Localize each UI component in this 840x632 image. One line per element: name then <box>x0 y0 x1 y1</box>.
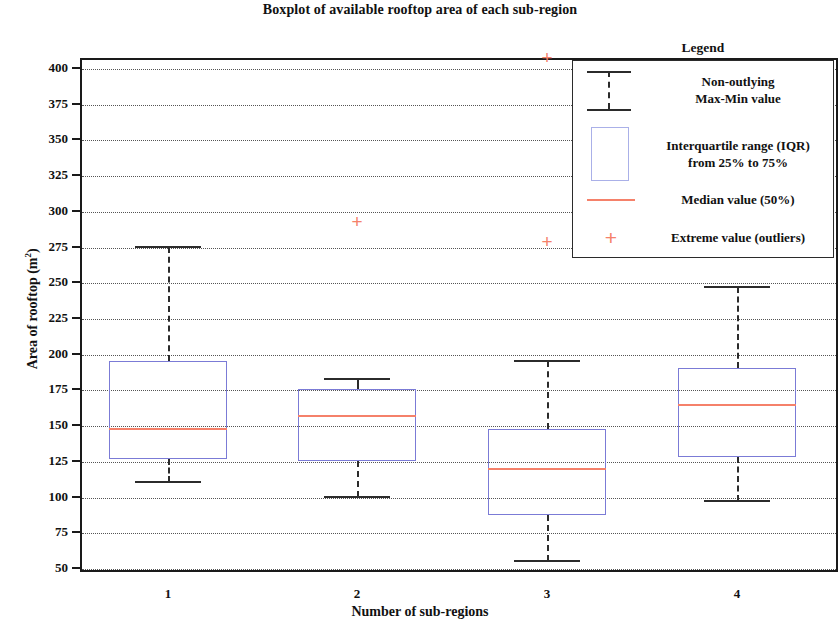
whisker-lower <box>168 459 170 482</box>
whisker-upper <box>737 287 739 368</box>
gridline <box>82 533 836 534</box>
gridline <box>82 319 836 320</box>
whisker-cap-lower <box>704 500 770 502</box>
gridline <box>82 462 836 463</box>
y-tick-mark <box>72 281 81 283</box>
gridline <box>82 498 836 499</box>
y-tick-mark <box>72 246 81 248</box>
median-line <box>109 428 227 430</box>
boxplot-figure: Boxplot of available rooftop area of eac… <box>0 0 840 632</box>
legend-entry-iqr: Interquartile range (IQR) from 25% to 75… <box>573 119 835 181</box>
y-axis-title: Area of rooftop (m2) <box>23 159 41 459</box>
whisker-line-icon <box>608 71 610 109</box>
y-tick-mark <box>72 174 81 176</box>
outlier-marker: + <box>351 211 362 230</box>
outlier-plus-icon: + <box>605 227 617 248</box>
y-tick-mark <box>72 496 81 498</box>
box-iqr <box>678 368 796 457</box>
y-tick-mark <box>72 67 81 69</box>
whisker-lower <box>357 461 359 497</box>
outlier-marker: + <box>541 47 552 66</box>
median-line-icon <box>587 199 635 201</box>
x-tick-label: 1 <box>138 586 198 602</box>
legend-label-iqr-line1: Interquartile range (IQR) <box>666 138 809 153</box>
gridline <box>82 569 836 570</box>
whisker-cap-upper <box>514 360 580 362</box>
legend-label-whisker-line1: Non-outlying <box>702 74 775 89</box>
y-axis-title-exponent: 2 <box>23 253 33 258</box>
box-iqr <box>298 389 416 460</box>
y-tick-label: 100 <box>18 489 68 505</box>
iqr-box-icon <box>591 127 629 181</box>
whisker-cap-lower <box>514 560 580 562</box>
y-tick-mark <box>72 210 81 212</box>
y-axis-title-tail: ) <box>25 248 40 253</box>
legend-label-outlier: Extreme value (outliers) <box>643 229 833 246</box>
outlier-marker: + <box>541 231 552 250</box>
median-line <box>678 404 796 406</box>
y-tick-mark <box>72 424 81 426</box>
whisker-upper <box>357 379 359 389</box>
whisker-cap-bottom-icon <box>587 109 631 111</box>
y-tick-mark <box>72 317 81 319</box>
legend-entry-outlier: + Extreme value (outliers) <box>573 219 835 259</box>
y-tick-label: 375 <box>18 96 68 112</box>
legend-title: Legend <box>572 40 834 56</box>
median-line <box>488 468 606 470</box>
median-line <box>298 415 416 417</box>
whisker-cap-upper <box>135 246 201 248</box>
box-iqr <box>109 361 227 460</box>
legend-box: Non-outlying Max-Min value Interquartile… <box>572 60 834 258</box>
whisker-cap-lower <box>135 481 201 483</box>
whisker-cap-upper <box>324 378 390 380</box>
legend-label-median: Median value (50%) <box>643 191 833 208</box>
whisker-lower <box>737 457 739 501</box>
y-tick-mark <box>72 138 81 140</box>
y-tick-label: 75 <box>18 524 68 540</box>
whisker-upper <box>547 361 549 430</box>
y-axis-title-base: Area of rooftop (m <box>25 258 40 370</box>
chart-title: Boxplot of available rooftop area of eac… <box>0 2 840 18</box>
legend-label-whisker: Non-outlying Max-Min value <box>643 73 833 107</box>
x-tick-label: 2 <box>327 586 387 602</box>
whisker-cap-upper <box>704 286 770 288</box>
y-tick-mark <box>72 103 81 105</box>
y-tick-mark <box>72 353 81 355</box>
y-tick-label: 350 <box>18 131 68 147</box>
y-tick-mark <box>72 531 81 533</box>
legend-label-iqr-line2: from 25% to 75% <box>688 155 788 170</box>
legend-entry-median: Median value (50%) <box>573 181 835 219</box>
legend-label-whisker-line2: Max-Min value <box>695 91 781 106</box>
x-tick-label: 4 <box>707 586 767 602</box>
whisker-upper <box>168 247 170 361</box>
gridline <box>82 355 836 356</box>
x-axis-title: Number of sub-regions <box>0 604 840 620</box>
whisker-lower <box>547 515 549 561</box>
legend-label-iqr: Interquartile range (IQR) from 25% to 75… <box>643 137 833 171</box>
box-iqr <box>488 429 606 515</box>
x-tick-label: 3 <box>517 586 577 602</box>
gridline <box>82 283 836 284</box>
y-tick-mark <box>72 460 81 462</box>
y-tick-mark <box>72 388 81 390</box>
y-tick-mark <box>72 567 81 569</box>
whisker-cap-lower <box>324 496 390 498</box>
y-tick-label: 400 <box>18 60 68 76</box>
legend-entry-whisker: Non-outlying Max-Min value <box>573 61 835 119</box>
y-tick-label: 50 <box>18 560 68 576</box>
